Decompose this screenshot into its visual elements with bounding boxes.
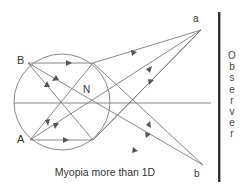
image-a-label: a [193, 14, 199, 24]
diagram-caption: Myopia more than 1D [40, 166, 170, 178]
myopia-diagram: B A N a b O b s e r v e r Myopia more th… [0, 0, 241, 190]
image-b-label: b [194, 169, 200, 179]
nodal-point-label: N [83, 85, 90, 95]
point-b-label: B [17, 55, 24, 66]
point-a-label: A [17, 134, 24, 145]
observer-label: O b s e r v e r [227, 50, 237, 140]
ray-diagram-canvas [0, 0, 241, 190]
observer-bar [218, 12, 220, 182]
